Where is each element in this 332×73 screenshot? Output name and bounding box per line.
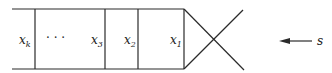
queue-diagram: xk · · · x3 x2 x1 s (0, 0, 332, 73)
left-arrow-icon (279, 38, 312, 44)
cell-label-x3: x3 (91, 33, 103, 49)
cell-label-x1: x1 (170, 33, 182, 49)
cell-label-x2: x2 (124, 33, 136, 49)
arrow-label-s: s (317, 34, 323, 48)
cell-label-xk: xk (19, 33, 31, 49)
cell-label-ellipsis: · · · (46, 31, 65, 45)
